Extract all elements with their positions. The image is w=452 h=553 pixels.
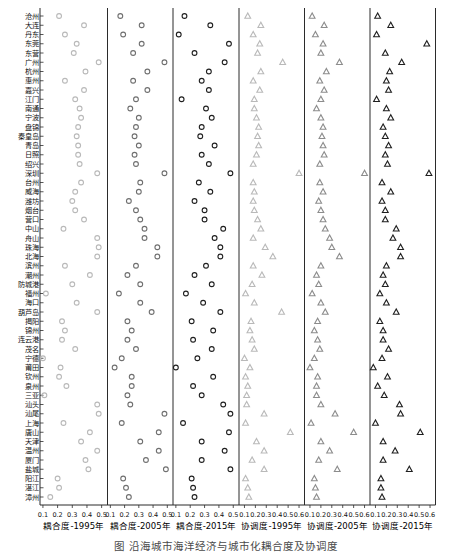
data-point-triangle: [245, 485, 251, 490]
data-point-triangle: [318, 300, 324, 305]
data-point-triangle: [251, 346, 257, 351]
data-point-circle: [138, 282, 143, 287]
data-point-triangle: [377, 290, 383, 295]
data-point-triangle: [309, 290, 315, 295]
data-point-circle: [96, 245, 101, 250]
city-label: 厦门: [25, 456, 39, 465]
data-point-triangle: [379, 355, 385, 360]
data-point-circle: [61, 421, 66, 426]
data-point-triangle: [337, 59, 343, 64]
city-label: 茂名: [25, 345, 39, 354]
data-point-triangle: [393, 309, 399, 314]
city-label: 绍兴: [25, 160, 39, 169]
x-tick-label: 0.3: [67, 511, 77, 519]
city-label: 潮州: [25, 271, 39, 280]
data-point-circle: [77, 106, 82, 111]
city-label: 锦州: [25, 326, 39, 335]
data-point-triangle: [270, 253, 276, 258]
x-tick-label: 0.4: [148, 511, 158, 519]
data-point-circle: [192, 51, 197, 56]
data-point-triangle: [417, 429, 423, 434]
city-label: 葫芦岛: [18, 308, 39, 317]
data-point-triangle: [317, 78, 323, 83]
data-point-circle: [156, 448, 161, 453]
data-point-circle: [74, 41, 79, 46]
city-label: 营口: [25, 215, 39, 224]
data-point-circle: [211, 328, 216, 333]
data-point-triangle: [280, 59, 286, 64]
data-point-triangle: [318, 438, 324, 443]
data-point-triangle: [315, 318, 321, 323]
data-point-circle: [228, 467, 233, 472]
data-point-circle: [192, 273, 197, 278]
data-point-circle: [209, 115, 214, 120]
data-point-triangle: [251, 96, 257, 101]
data-point-circle: [125, 337, 130, 342]
data-point-triangle: [249, 337, 255, 342]
data-point-triangle: [383, 300, 389, 305]
data-point-circle: [176, 32, 181, 37]
data-point-circle: [86, 467, 91, 472]
data-point-circle: [87, 273, 92, 278]
data-point-triangle: [255, 50, 261, 55]
data-point-circle: [134, 162, 139, 167]
data-point-triangle: [317, 179, 323, 184]
data-point-triangle: [255, 133, 261, 138]
city-label: 沧州: [25, 12, 39, 21]
x-tick-label: 0.4: [214, 511, 224, 519]
data-point-triangle: [319, 133, 325, 138]
data-point-triangle: [375, 383, 381, 388]
data-point-circle: [95, 171, 100, 176]
data-point-circle: [71, 51, 76, 56]
data-point-circle: [138, 217, 143, 222]
data-point-circle: [129, 384, 134, 389]
data-point-triangle: [318, 401, 324, 406]
city-label: 三亚: [25, 391, 39, 400]
data-point-circle: [206, 88, 211, 93]
dot-plot-chart: 沧州大连丹东东莞东营广州杭州惠州嘉兴江门南通宁波盘锦秦皇岛青岛日照绍兴深圳台州威…: [0, 0, 452, 538]
data-point-circle: [79, 180, 84, 185]
data-point-circle: [192, 199, 197, 204]
data-point-circle: [198, 134, 203, 139]
city-label: 丹东: [25, 30, 39, 39]
x-tick-label: 0.4: [403, 511, 413, 519]
data-point-circle: [138, 439, 143, 444]
data-point-circle: [182, 14, 187, 19]
city-label: 海口: [25, 298, 39, 307]
city-label: 汕头: [25, 400, 39, 409]
data-point-circle: [95, 448, 100, 453]
data-point-circle: [142, 226, 147, 231]
x-tick-label: 0.5: [414, 511, 424, 519]
data-point-circle: [126, 199, 131, 204]
data-point-circle: [136, 143, 141, 148]
data-point-triangle: [382, 281, 388, 286]
x-tick-label: 0.3: [327, 511, 337, 519]
data-point-triangle: [382, 152, 388, 157]
data-point-triangle: [323, 68, 329, 73]
data-point-circle: [70, 199, 75, 204]
data-point-triangle: [318, 96, 324, 101]
x-tick-label: 0.1: [305, 511, 315, 519]
x-tick-label: 0.2: [250, 511, 260, 519]
x-tick-label: 0.3: [392, 511, 402, 519]
data-point-circle: [221, 402, 226, 407]
data-point-triangle: [255, 216, 261, 221]
data-point-triangle: [374, 31, 380, 36]
city-label: 盐城: [25, 465, 39, 474]
data-point-circle: [48, 495, 53, 500]
data-point-circle: [218, 245, 223, 250]
data-point-triangle: [261, 411, 267, 416]
data-point-triangle: [318, 115, 324, 120]
data-point-triangle: [377, 318, 383, 323]
data-point-circle: [57, 14, 62, 19]
data-point-circle: [73, 347, 78, 352]
data-point-circle: [73, 97, 78, 102]
data-point-triangle: [327, 235, 333, 240]
data-point-circle: [199, 393, 204, 398]
data-point-triangle: [254, 152, 260, 157]
data-point-circle: [145, 88, 150, 93]
data-point-circle: [57, 485, 62, 490]
panel-label: 耦合度-1995年: [43, 521, 104, 531]
data-point-triangle: [256, 124, 262, 129]
city-label: 阳江: [25, 474, 39, 483]
